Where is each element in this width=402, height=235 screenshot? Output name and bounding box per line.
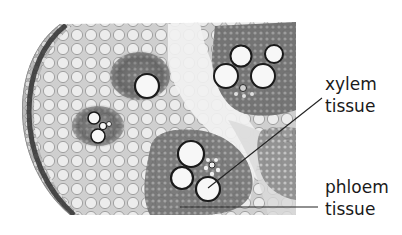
phloem-label-line2: tissue (325, 198, 389, 220)
xylem-tissue-label: xylem tissue (325, 73, 377, 117)
vascular-bundle-left (70, 104, 126, 148)
xylem-label-line1: xylem (325, 73, 377, 95)
vascular-bundle-top-middle (108, 50, 172, 102)
phloem-label-line1: phloem (325, 176, 389, 198)
xylem-label-line2: tissue (325, 95, 377, 117)
phloem-tissue-label: phloem tissue (325, 176, 389, 220)
